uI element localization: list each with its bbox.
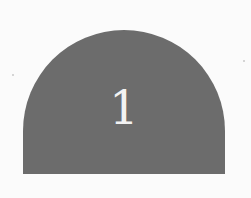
canvas: 1 <box>0 0 251 198</box>
number-label: 1 <box>23 85 225 131</box>
arch-shape: 1 <box>23 30 225 174</box>
speck-dot <box>243 60 245 62</box>
speck-dot <box>12 74 14 76</box>
